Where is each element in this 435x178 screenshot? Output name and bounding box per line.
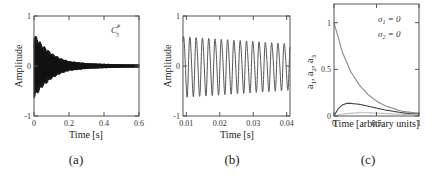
y-tick-label: 0.5	[321, 65, 331, 74]
figure: 00.20.40.6-101 C#5 Time [s] Amplitude (a…	[0, 0, 435, 178]
y-tick-label: 0	[27, 62, 31, 71]
panel-c: 00.5100.51 σ1 = 0 σ2 = 0 Time [arbitrary…	[304, 4, 421, 167]
panel-c-plot-frame	[334, 4, 419, 116]
x-tick-label: 0.02	[213, 119, 227, 128]
y-tick-label: 1	[27, 12, 31, 21]
panel-c-xlabel: Time [arbitrary units]	[333, 118, 419, 129]
panel-c-sigma2-annotation: σ2 = 0	[378, 29, 401, 40]
panel-a-note-annotation: C#5	[111, 23, 121, 38]
y-tick-label: -1	[24, 112, 31, 121]
panel-c-caption: (c)	[361, 152, 375, 167]
series-a1	[334, 23, 419, 114]
panel-c-ticks: 00.5100.51	[321, 4, 421, 128]
x-tick-label: 0.2	[64, 119, 74, 128]
x-tick-label: 0.04	[280, 119, 294, 128]
panel-c-curves	[334, 23, 419, 116]
y-tick-label: 0	[176, 62, 180, 71]
panel-a-ylabel: Amplitude	[13, 44, 24, 87]
panel-b-xlabel: Time [s]	[220, 129, 254, 140]
y-tick-label: 1	[327, 19, 331, 28]
panel-c-sigma1-annotation: σ1 = 0	[378, 14, 401, 25]
y-tick-label: 0	[327, 112, 331, 121]
panel-a: 00.20.40.6-101 C#5 Time [s] Amplitude (a…	[13, 12, 144, 167]
panel-c-ylabel: a1, a2, a3	[304, 55, 318, 89]
x-tick-label: 0.01	[179, 119, 193, 128]
panel-b-caption: (b)	[224, 152, 239, 167]
x-tick-label: 0.4	[99, 119, 109, 128]
x-tick-label: 0	[32, 119, 36, 128]
y-tick-label: 1	[176, 12, 180, 21]
x-tick-label: 0.6	[134, 119, 144, 128]
panel-b-waveform	[183, 37, 290, 98]
panel-b: 0.010.020.030.04-101 Time [s] Amplitude …	[162, 12, 294, 167]
x-tick-label: 0.03	[246, 119, 260, 128]
y-tick-label: -1	[173, 112, 180, 121]
panel-a-waveform	[34, 36, 139, 98]
panel-b-ylabel: Amplitude	[162, 44, 173, 87]
panel-a-xlabel: Time [s]	[69, 129, 103, 140]
panel-a-caption: (a)	[69, 152, 83, 167]
